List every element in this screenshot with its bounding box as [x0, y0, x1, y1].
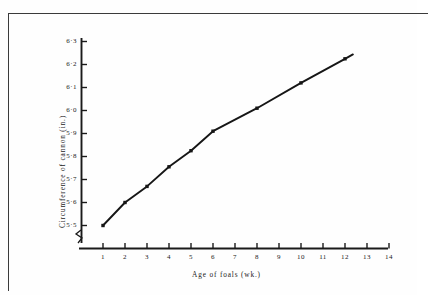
x-tick-label: 11: [315, 253, 331, 261]
x-tick-label: 14: [381, 253, 397, 261]
x-tick-label: 2: [117, 253, 133, 261]
x-tick-label: 13: [359, 253, 375, 261]
x-tick-label: 8: [249, 253, 265, 261]
y-tick-label: 6·2: [55, 60, 77, 68]
y-tick-label: 6·3: [55, 37, 77, 45]
y-tick-label: 6·1: [55, 83, 77, 91]
x-axis-title: Age of foals (wk.): [0, 270, 417, 279]
data-point: [101, 224, 104, 227]
data-point: [255, 107, 258, 110]
x-tick-label: 9: [271, 253, 287, 261]
x-tick-label: 12: [337, 253, 353, 261]
y-tick-label: 6·0: [55, 106, 77, 114]
data-point: [145, 185, 148, 188]
y-axis-title: Circumference of cannon (in.): [58, 115, 67, 228]
data-point: [123, 201, 126, 204]
x-tick-label: 7: [227, 253, 243, 261]
x-tick-label: 1: [95, 253, 111, 261]
x-tick-label: 4: [161, 253, 177, 261]
x-tick-label: 6: [205, 253, 221, 261]
data-point: [299, 81, 302, 84]
data-point: [343, 57, 346, 60]
data-line: [103, 54, 353, 225]
x-tick-label: 3: [139, 253, 155, 261]
x-tick-label: 5: [183, 253, 199, 261]
data-point-markers: [101, 57, 346, 227]
data-point: [189, 149, 192, 152]
data-point: [167, 165, 170, 168]
x-tick-label: 10: [293, 253, 309, 261]
data-point: [211, 130, 214, 133]
